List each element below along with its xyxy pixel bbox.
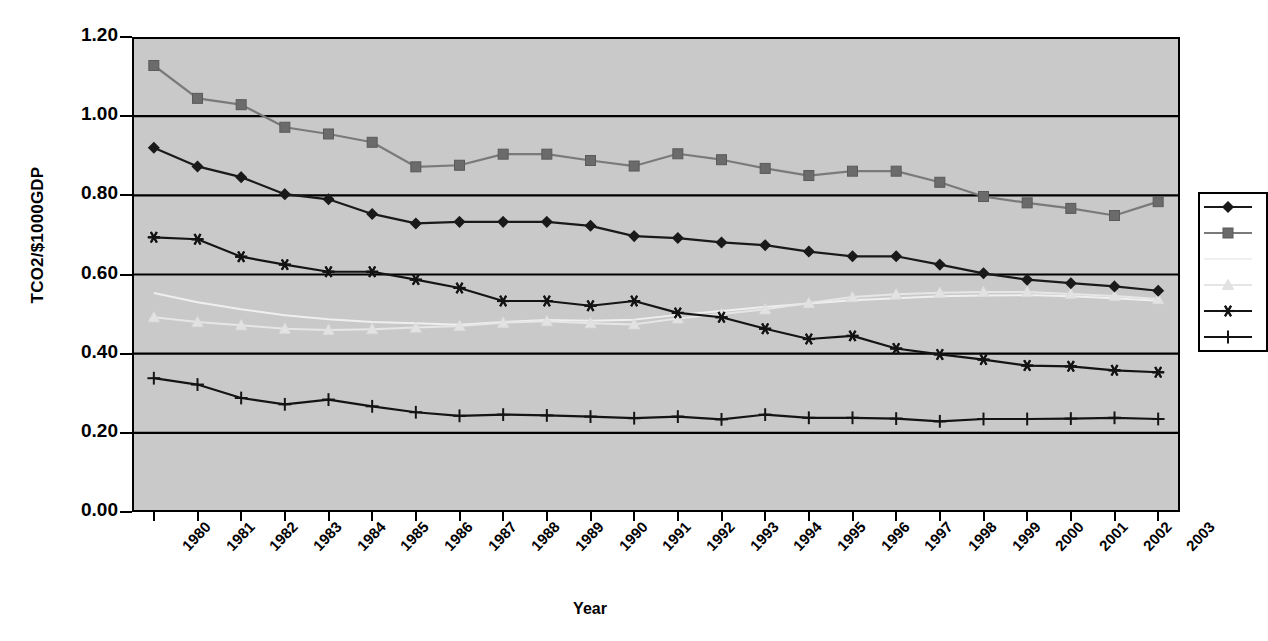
x-tick-mark [284,512,286,521]
plus-marker [1222,331,1235,344]
asterisk-marker [628,296,640,306]
square-marker [629,161,639,171]
square-marker [455,160,465,170]
plus-marker [977,413,990,426]
series-line [154,292,1158,330]
diamond-marker [586,221,596,231]
plus-marker [540,409,553,422]
square-marker [280,122,290,132]
square-marker [149,61,159,71]
y-tick-label: 1.20 [56,24,118,46]
plus-marker [671,410,684,423]
x-tick-label: 1986 [440,518,475,554]
x-tick-label: 1997 [921,518,956,554]
diamond-marker [236,172,246,182]
diamond-marker [673,233,683,243]
chart-legend[interactable] [1198,192,1268,352]
x-tick-mark [1157,512,1159,521]
asterisk-marker [497,296,509,306]
y-tick-label: 1.00 [56,103,118,125]
diamond-marker [193,162,203,172]
x-tick-label: 1993 [746,518,781,554]
legend-marker-triangle [1200,272,1258,298]
x-tick-label: 1989 [571,518,606,554]
x-tick-label: 1988 [528,518,563,554]
legend-item-2[interactable] [1200,220,1266,246]
asterisk-marker [279,259,291,269]
plus-marker [933,415,946,428]
y-tick-mark [120,353,132,355]
plus-marker [802,411,815,424]
x-tick-mark [415,512,417,521]
diamond-marker [455,217,465,227]
legend-marker-square [1200,220,1258,246]
legend-item-6[interactable] [1200,324,1266,350]
plus-marker [278,398,291,411]
plus-marker [628,412,641,425]
x-tick-mark [371,512,373,521]
asterisk-marker [148,232,160,242]
square-marker [1110,211,1120,221]
diamond-marker [760,240,770,250]
series-line [154,293,1158,325]
x-tick-mark [459,512,461,521]
x-tick-label: 1981 [222,518,257,554]
square-marker [411,162,421,172]
x-tick-mark [1114,512,1116,521]
diamond-marker [717,238,727,248]
x-tick-label: 1995 [833,518,868,554]
x-tick-label: 1985 [397,518,432,554]
series-1-group [149,143,1163,296]
legend-item-4[interactable] [1200,272,1266,298]
plus-marker [409,406,422,419]
y-tick-mark [120,194,132,196]
diamond-marker [1022,275,1032,285]
legend-item-5[interactable] [1200,298,1266,324]
diamond-marker [411,219,421,229]
legend-item-1[interactable] [1200,194,1266,220]
series-line [154,378,1158,421]
asterisk-marker [454,283,466,293]
plus-marker [715,413,728,426]
plus-marker [191,378,204,391]
series-4-group [148,286,1164,334]
x-tick-mark [852,512,854,521]
legend-item-3[interactable] [1200,246,1266,272]
square-marker [324,129,334,139]
diamond-marker [1110,281,1120,291]
x-tick-mark [721,512,723,521]
diamond-marker [498,217,508,227]
asterisk-marker [759,324,771,334]
square-marker [586,156,596,166]
plus-marker [366,400,379,413]
asterisk-marker [585,301,597,311]
asterisk-marker [192,234,204,244]
series-line [154,237,1158,372]
y-axis-title: TCO2/$1000GDP [28,135,48,335]
plus-marker [1152,413,1165,426]
square-marker [498,149,508,159]
x-tick-label: 1983 [309,518,344,554]
plus-marker [1108,411,1121,424]
x-tick-mark [197,512,199,521]
x-tick-label: 2001 [1095,518,1130,554]
y-tick-label: 0.60 [56,262,118,284]
plus-marker [497,408,510,421]
x-tick-mark [895,512,897,521]
x-tick-label: 1996 [877,518,912,554]
plus-marker [1021,413,1034,426]
diamond-marker [891,251,901,261]
x-tick-label: 1980 [178,518,213,554]
square-marker [935,177,945,187]
asterisk-marker [847,331,859,341]
plus-marker [453,409,466,422]
asterisk-marker [934,349,946,359]
plus-marker [890,412,903,425]
plus-marker [147,372,160,385]
y-tick-mark [120,36,132,38]
asterisk-marker [1021,360,1033,370]
y-tick-mark [120,432,132,434]
y-tick-label: 0.80 [56,182,118,204]
x-axis-title: Year [0,600,1180,618]
